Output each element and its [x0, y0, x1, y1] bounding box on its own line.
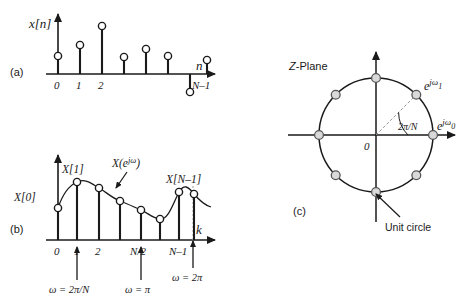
label-e-jw0: ejω0: [437, 117, 455, 133]
panel-b-tick-2: 2: [95, 245, 101, 257]
panel-b-markers: [54, 178, 197, 222]
panel-b-tick-0: 0: [54, 245, 60, 257]
e-jw0-sub: 0: [451, 122, 455, 131]
sample-point-1: [412, 90, 421, 99]
panel-b-label-x1: X[1]: [61, 163, 84, 175]
panel-b-label-x0: X[0]: [13, 191, 36, 203]
panel-b-tick-nhalf: N/2: [129, 245, 146, 257]
omega-2pi-label: ω = 2π: [172, 272, 203, 283]
panel-b-xlabel: k: [196, 222, 202, 237]
e-jw1-sup: jω: [428, 77, 438, 87]
panel-a: (a) x[n] n 0 1: [10, 14, 215, 96]
panel-a-ylabel: x[n]: [28, 16, 51, 31]
sample-point-7: [412, 171, 421, 180]
panel-a-tick-n1: N–1: [191, 79, 210, 91]
panel-b-dtft-envelope: [58, 181, 211, 219]
panel-b-label: (b): [10, 223, 23, 235]
label-e-jw1: ejω1: [424, 77, 442, 93]
sample-point-6: [372, 188, 381, 197]
panel-c-label: (c): [293, 205, 306, 217]
origin-label: 0: [364, 140, 370, 152]
dtft-leader-arrow: [116, 172, 127, 188]
sample-point-2: [372, 74, 381, 83]
panel-b: (b) k 0 1: [10, 155, 215, 295]
e-jw0-sup: jω: [441, 117, 451, 127]
unit-circle-label: Unit circle: [385, 221, 431, 233]
panel-a-label: (a): [10, 66, 23, 78]
unit-circle-arrow: [376, 194, 400, 217]
panel-b-ticks: 0 1 2 N/2 N–1: [54, 245, 187, 257]
plane-label-rest: -Plane: [296, 60, 328, 72]
panel-b-stems: [58, 182, 194, 240]
panel-a-xlabel: n: [196, 58, 203, 73]
e-jw1-sub: 1: [438, 82, 442, 91]
unit-circle-callout: Unit circle: [376, 194, 431, 233]
dtft-base: X(e: [111, 157, 128, 170]
dtft-end: ): [135, 157, 140, 170]
omega-2pin-label: ω = 2π/N: [49, 284, 90, 295]
angle-label: 2π/N: [398, 121, 419, 132]
panel-a-tick-0: 0: [54, 79, 60, 91]
panel-a-tick-1: 1: [76, 79, 82, 91]
sample-point-5: [331, 171, 340, 180]
sample-point-3: [331, 90, 340, 99]
panel-b-tick-n1: N–1: [168, 245, 187, 257]
panel-a-tick-2: 2: [98, 79, 104, 91]
panel-c: (c) Z-Plane 2π/N 0 ejω0: [288, 52, 455, 233]
panel-b-label-dtft: X(ejω): [111, 155, 140, 188]
sample-point-4: [315, 131, 324, 140]
dtft-sup: jω: [127, 155, 136, 165]
figure-svg: (a) x[n] n 0 1: [0, 0, 467, 297]
svg-text:X(ejω): X(ejω): [111, 155, 140, 170]
panel-c-plane-label: Z-Plane: [288, 60, 328, 72]
omega-pi-label: ω = π: [125, 284, 151, 295]
panel-b-label-xn1: X[N–1]: [165, 173, 201, 185]
figure-root: (a) x[n] n 0 1: [0, 0, 467, 297]
